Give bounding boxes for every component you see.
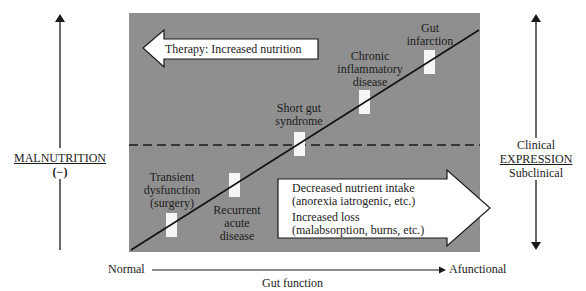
normal-label: Normal	[108, 263, 145, 276]
cause-arrow-text: Decreased nutrient intake (anorexia iatr…	[292, 182, 424, 237]
therapy-arrow-label: Therapy: Increased nutrition	[165, 42, 302, 56]
expression-title: EXPRESSION	[493, 152, 579, 166]
subclinical-label: Subclinical	[493, 166, 579, 180]
increased-loss-detail: (malabsorption, burns, etc.)	[292, 224, 424, 237]
decreased-intake-detail: (anorexia iatrogenic, etc.)	[292, 195, 424, 208]
up-arrow-icon	[531, 14, 541, 22]
condition-line: syndrome	[259, 115, 339, 128]
malnutrition-title: MALNUTRITION	[12, 151, 108, 165]
condition-short-gut-syndrome: Short gut syndrome	[259, 102, 339, 128]
gut-function-title: Gut function	[262, 277, 323, 290]
condition-gut-infarction: Gut infarction	[395, 22, 465, 48]
condition-line: infarction	[395, 35, 465, 48]
up-arrow-icon	[55, 14, 65, 22]
condition-chronic-inflammatory-disease: Chronic inflammatory disease	[325, 50, 415, 89]
down-arrow-icon	[531, 242, 541, 250]
condition-recurrent-acute-disease: Recurrent acute disease	[197, 204, 277, 243]
right-arrow-icon	[439, 267, 446, 274]
malnutrition-sign: (−)	[12, 165, 108, 179]
malnutrition-axis	[55, 14, 65, 250]
malnutrition-label: MALNUTRITION (−)	[12, 151, 108, 179]
expression-label: Clinical EXPRESSION Subclinical	[493, 138, 579, 180]
condition-line: disease	[197, 230, 277, 243]
gut-function-axis	[152, 267, 446, 274]
clinical-label: Clinical	[493, 138, 579, 152]
expression-axis	[531, 14, 541, 250]
afunctional-label: Afunctional	[449, 263, 506, 276]
condition-line: disease	[325, 76, 415, 89]
